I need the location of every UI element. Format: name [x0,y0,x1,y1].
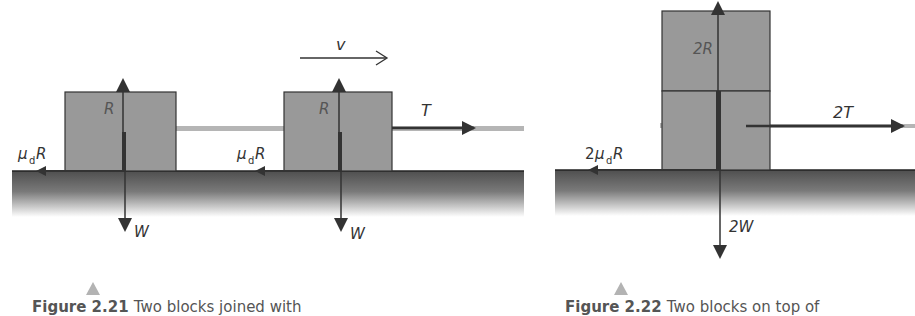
top-block [662,11,770,91]
svg-text:2: 2 [585,145,595,163]
svg-text:R: R [36,145,46,163]
friction-label-2: μ d R [236,145,265,166]
svg-text:d: d [606,155,612,166]
svg-text:μ: μ [17,145,28,163]
figure-right: 2R 2T 2W 2 μ d R [555,3,915,295]
friction-label-right: 2 μ d R [585,145,623,166]
caption-marker-triangle [86,282,100,295]
reaction-thick-2 [338,132,342,172]
svg-text:R: R [613,145,623,163]
caption-right: Figure 2.22 Two blocks on top of [565,298,819,316]
ground-surface-right [555,170,915,216]
svg-text:d: d [29,155,35,166]
reaction-thick-1 [122,132,126,172]
tension-label: T [421,101,432,120]
svg-text:μ: μ [236,145,247,163]
weight-label-1: W [134,223,150,241]
ground-surface [12,171,524,217]
reaction-thick-right [716,91,721,171]
block-1 [65,92,176,171]
friction-label-1: μ d R [17,145,46,166]
weight-label-right: 2W [729,218,755,236]
rope [176,126,284,131]
caption-marker-triangle-right [614,282,628,295]
figure-left: v R W μ d R R W μ d R T [12,35,524,295]
velocity-label: v [336,35,346,54]
reaction-label-1: R [104,100,114,118]
caption-left: Figure 2.21 Two blocks joined with [32,298,301,316]
reaction-label-2: R [319,100,329,118]
tension-label-right: 2T [833,103,854,122]
weight-label-2: W [350,225,366,243]
svg-text:μ: μ [594,145,605,163]
reaction-label-right: 2R [693,40,713,58]
svg-text:R: R [255,145,265,163]
svg-text:d: d [248,155,254,166]
